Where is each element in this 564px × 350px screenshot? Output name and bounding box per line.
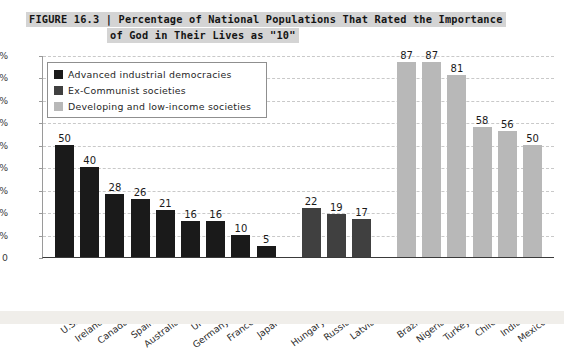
chart-bar: 28: [105, 194, 124, 257]
y-axis-label: 20%: [0, 207, 8, 218]
figure-title-line-2: of God in Their Lives as "10": [107, 28, 299, 43]
chart-bar: 22: [302, 208, 321, 257]
bar-value-label: 21: [159, 198, 172, 209]
chart-bar: 19: [327, 214, 346, 257]
legend-swatch-icon: [54, 102, 63, 111]
chart-bar: 21: [156, 210, 175, 257]
y-axis-label: 40%: [0, 162, 8, 173]
y-axis-label: 70%: [0, 95, 8, 106]
legend-item-label: Developing and low-income societies: [68, 101, 251, 112]
bar-value-label: 16: [209, 209, 222, 220]
chart-bar: 17: [352, 219, 371, 257]
chart-bar: 81: [447, 75, 466, 257]
legend-swatch-icon: [54, 86, 63, 95]
chart-bar: 56: [498, 131, 517, 257]
y-axis-tick: [39, 78, 43, 79]
bar-value-label: 5: [263, 234, 269, 245]
chart-bar: 50: [523, 145, 542, 257]
bar-value-label: 26: [134, 187, 147, 198]
figure-title-block: FIGURE 16.3 | Percentage of National Pop…: [26, 12, 542, 44]
chart-bar: 40: [80, 167, 99, 257]
y-axis-label: 0: [0, 252, 8, 263]
chart-legend: Advanced industrial democraciesEx-Commun…: [47, 62, 267, 118]
bar-value-label: 81: [451, 63, 464, 74]
y-axis-tick: [39, 258, 43, 259]
y-axis-tick: [39, 168, 43, 169]
y-axis-tick: [39, 236, 43, 237]
legend-item-label: Ex-Communist societies: [68, 85, 186, 96]
bar-value-label: 87: [400, 50, 413, 61]
bar-value-label: 50: [58, 133, 71, 144]
bar-value-label: 28: [109, 182, 122, 193]
y-gridline: [43, 56, 554, 57]
chart-bar: 50: [55, 145, 74, 257]
chart-bar: 58: [473, 127, 492, 257]
y-axis-tick: [39, 213, 43, 214]
page-bottom-band: [0, 311, 564, 324]
bar-value-label: 56: [501, 119, 514, 130]
legend-item: Ex-Communist societies: [54, 83, 260, 99]
bar-value-label: 50: [526, 133, 539, 144]
chart-bar: 16: [206, 221, 225, 257]
y-axis-tick: [39, 191, 43, 192]
y-axis-tick: [39, 56, 43, 57]
bar-value-label: 40: [83, 155, 96, 166]
bar-value-label: 17: [355, 207, 368, 218]
y-axis-label: 80%: [0, 72, 8, 83]
y-axis-tick: [39, 101, 43, 102]
y-axis-tick: [39, 146, 43, 147]
legend-swatch-icon: [54, 70, 63, 79]
bar-value-label: 10: [235, 223, 248, 234]
y-axis-label: 50%: [0, 140, 8, 151]
bar-value-label: 87: [425, 50, 438, 61]
chart-bar: 10: [231, 235, 250, 257]
y-axis-tick: [39, 123, 43, 124]
chart-bar: 5: [257, 246, 276, 257]
y-axis-label: 90%: [0, 50, 8, 61]
y-axis-label: 30%: [0, 185, 8, 196]
bar-value-label: 58: [476, 115, 489, 126]
chart-bar: 16: [181, 221, 200, 257]
chart-bar: 26: [131, 199, 150, 257]
y-axis-label: 10%: [0, 230, 8, 241]
legend-item: Developing and low-income societies: [54, 99, 260, 115]
legend-item-label: Advanced industrial democracies: [68, 69, 232, 80]
legend-item: Advanced industrial democracies: [54, 67, 260, 83]
y-axis-label: 60%: [0, 117, 8, 128]
bar-value-label: 16: [184, 209, 197, 220]
chart-bar: 87: [422, 62, 441, 257]
bar-value-label: 22: [305, 196, 318, 207]
figure-title-line-1: FIGURE 16.3 | Percentage of National Pop…: [26, 12, 506, 27]
bar-value-label: 19: [330, 202, 343, 213]
chart-bar: 87: [397, 62, 416, 257]
